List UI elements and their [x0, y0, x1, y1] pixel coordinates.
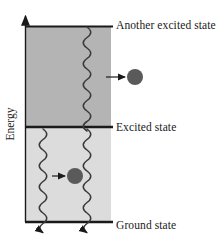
upper-band	[26, 26, 111, 127]
state-label-ground: Ground state	[116, 219, 176, 231]
diagram-canvas	[0, 0, 222, 244]
energy-diagram-figure: Another excited state Excited state Grou…	[0, 0, 222, 244]
state-label-excited: Excited state	[116, 121, 176, 133]
axis-label-energy: Energy	[4, 97, 16, 151]
particle-lower	[67, 168, 83, 184]
state-label-another-excited: Another excited state	[116, 19, 216, 31]
particle-upper	[127, 69, 143, 85]
